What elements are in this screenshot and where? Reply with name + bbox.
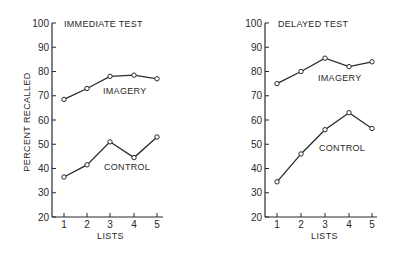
panel-immediate-test: 203040506070809010012345LISTSPERCENT REC… — [22, 18, 163, 242]
y-tick-label: 100 — [32, 18, 49, 29]
y-tick-label: 20 — [251, 212, 263, 223]
series-label-control: CONTROL — [104, 162, 150, 172]
y-tick-label: 80 — [38, 66, 50, 77]
series-label-imagery: IMAGERY — [103, 86, 146, 96]
data-point-marker — [132, 73, 136, 77]
y-tick-label: 70 — [38, 90, 50, 101]
chart-title: DELAYED TEST — [278, 19, 348, 29]
x-tick-label: 4 — [131, 219, 137, 230]
x-axis-label: LISTS — [311, 231, 338, 241]
data-point-marker — [85, 163, 89, 167]
x-tick-label: 1 — [61, 219, 67, 230]
y-tick-label: 60 — [38, 115, 50, 126]
y-axis-label: PERCENT RECALLED — [22, 72, 32, 171]
chart-canvas: 203040506070809010012345LISTSPERCENT REC… — [0, 0, 395, 255]
panel-delayed-test: 203040506070809010012345LISTSDELAYED TES… — [245, 18, 377, 242]
y-tick-label: 50 — [251, 139, 263, 150]
x-tick-label: 2 — [298, 219, 304, 230]
x-tick-label: 3 — [322, 219, 328, 230]
data-point-marker — [85, 86, 89, 90]
y-tick-label: 50 — [38, 139, 50, 150]
x-tick-label: 1 — [274, 219, 280, 230]
data-point-marker — [62, 97, 66, 101]
data-point-marker — [155, 77, 159, 81]
data-point-marker — [347, 64, 351, 68]
x-tick-label: 3 — [107, 219, 113, 230]
data-point-marker — [370, 60, 374, 64]
x-tick-label: 5 — [369, 219, 375, 230]
data-point-marker — [275, 81, 279, 85]
figure: 203040506070809010012345LISTSPERCENT REC… — [0, 0, 395, 255]
x-tick-label: 2 — [84, 219, 90, 230]
data-point-marker — [155, 135, 159, 139]
y-tick-label: 30 — [38, 187, 50, 198]
data-point-marker — [275, 180, 279, 184]
data-point-marker — [323, 128, 327, 132]
y-tick-label: 60 — [251, 115, 263, 126]
y-tick-label: 70 — [251, 90, 263, 101]
x-axis-label: LISTS — [97, 231, 124, 241]
data-point-marker — [299, 152, 303, 156]
data-point-marker — [323, 56, 327, 60]
chart-title: IMMEDIATE TEST — [64, 19, 143, 29]
series-label-imagery: IMAGERY — [318, 73, 361, 83]
y-tick-label: 40 — [251, 163, 263, 174]
y-tick-label: 80 — [251, 66, 263, 77]
data-point-marker — [132, 155, 136, 159]
x-tick-label: 4 — [346, 219, 352, 230]
data-point-marker — [370, 126, 374, 130]
y-tick-label: 90 — [251, 42, 263, 53]
data-point-marker — [299, 69, 303, 73]
data-point-marker — [108, 140, 112, 144]
data-point-marker — [62, 175, 66, 179]
y-tick-label: 40 — [38, 163, 50, 174]
data-point-marker — [108, 74, 112, 78]
y-tick-label: 20 — [38, 212, 50, 223]
y-tick-label: 100 — [245, 18, 262, 29]
x-tick-label: 5 — [154, 219, 160, 230]
y-tick-label: 90 — [38, 42, 50, 53]
data-point-marker — [347, 111, 351, 115]
y-tick-label: 30 — [251, 187, 263, 198]
series-label-control: CONTROL — [319, 143, 365, 153]
